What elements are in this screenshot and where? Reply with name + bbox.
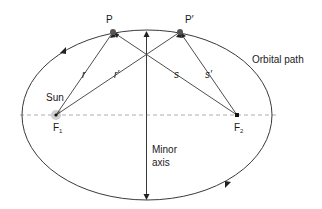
label-s: s — [174, 70, 179, 80]
direction-arrow-bottom — [225, 181, 231, 188]
label-focus1: F1 — [53, 123, 62, 134]
label-r: r — [82, 70, 85, 80]
point-p-prime-marker — [177, 29, 183, 35]
minor-axis-arrow-down — [144, 194, 150, 200]
label-r-prime: r′ — [114, 70, 119, 80]
minor-axis-arrow-up — [144, 31, 150, 37]
label-focus2: F2 — [234, 123, 243, 134]
label-p-prime: P′ — [185, 15, 194, 25]
label-orbital-path: Orbital path — [252, 55, 304, 65]
orbit-diagram — [0, 0, 322, 209]
direction-arrow-top — [60, 47, 66, 54]
label-minor-axis-2: axis — [152, 158, 170, 168]
focus1-marker — [54, 113, 57, 116]
label-p: P — [106, 15, 113, 25]
focus2-marker — [235, 113, 239, 117]
label-s-prime: s′ — [205, 70, 212, 80]
point-p-marker — [110, 29, 116, 35]
label-minor-axis-1: Minor — [152, 145, 177, 155]
label-sun: Sun — [46, 93, 64, 103]
